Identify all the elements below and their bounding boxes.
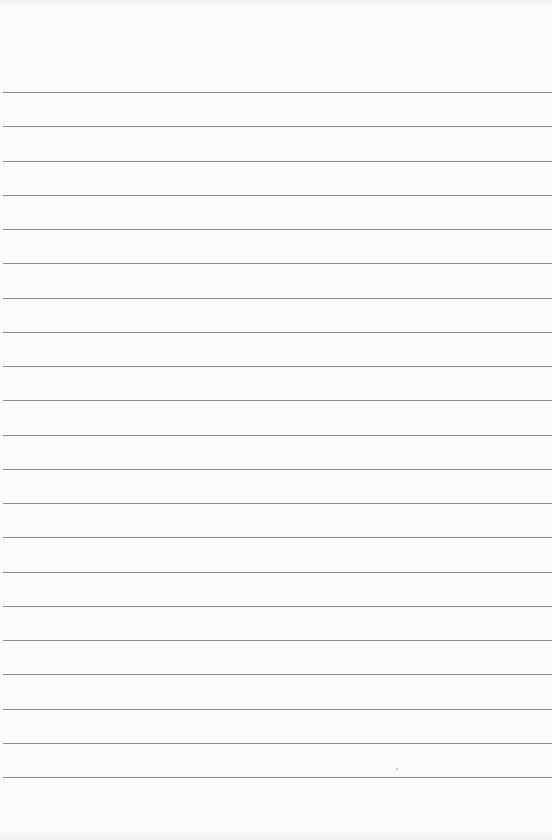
ruled-line [3, 195, 552, 196]
ruled-line [3, 92, 552, 93]
page-top-edge [0, 0, 552, 6]
ruled-line [3, 606, 552, 607]
ruled-line [3, 503, 552, 504]
ruled-line [3, 469, 552, 470]
ruled-line [3, 572, 552, 573]
ruled-line [3, 743, 552, 744]
ruled-line [3, 400, 552, 401]
ruled-paper-page [0, 0, 552, 840]
ruled-line [3, 298, 552, 299]
ruled-line [3, 435, 552, 436]
ruled-line [3, 161, 552, 162]
ruled-line [3, 229, 552, 230]
ruled-line [3, 709, 552, 710]
ruled-line [3, 777, 552, 778]
ruled-line [3, 332, 552, 333]
page-bottom-edge [0, 830, 552, 840]
ruled-line [3, 366, 552, 367]
ruled-line [3, 674, 552, 675]
ruled-line [3, 537, 552, 538]
ruled-line [3, 126, 552, 127]
ruled-line [3, 640, 552, 641]
paper-speck [396, 768, 398, 770]
ruled-line [3, 263, 552, 264]
